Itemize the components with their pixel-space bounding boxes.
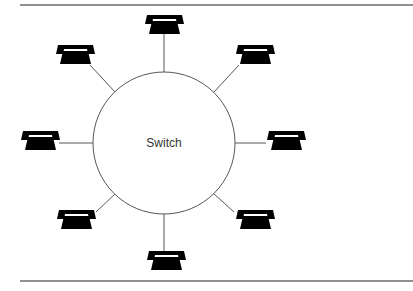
switch-label: Switch xyxy=(146,136,181,150)
switch-star-diagram: Switch xyxy=(0,0,413,291)
telephone-icon xyxy=(57,210,96,229)
phone-lower-right-line xyxy=(213,193,234,212)
phone-upper-left-line xyxy=(90,65,115,92)
telephone-icon xyxy=(56,45,95,64)
telephone-icon xyxy=(267,131,306,150)
telephone-icon xyxy=(145,15,184,34)
phone-lower-left-line xyxy=(96,193,116,212)
telephone-icon xyxy=(147,251,186,270)
phone-upper-right-line xyxy=(214,65,239,92)
telephone-icon xyxy=(236,45,275,64)
telephone-icon xyxy=(21,131,60,150)
telephone-icon xyxy=(236,210,275,229)
